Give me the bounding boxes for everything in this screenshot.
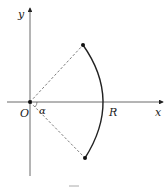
dashed-radius-top — [30, 45, 83, 102]
diagram-canvas: y x O α R — [0, 0, 167, 187]
angle-label: α — [39, 105, 46, 116]
circular-arc — [83, 45, 103, 158]
arc-bottom-endpoint — [83, 156, 87, 160]
arc-top-endpoint — [81, 43, 85, 47]
origin-label: O — [20, 107, 29, 120]
radius-label: R — [108, 106, 117, 119]
y-axis-label: y — [17, 8, 25, 21]
origin-point — [28, 100, 32, 104]
angle-arc — [35, 102, 37, 107]
x-axis-label: x — [155, 106, 162, 119]
